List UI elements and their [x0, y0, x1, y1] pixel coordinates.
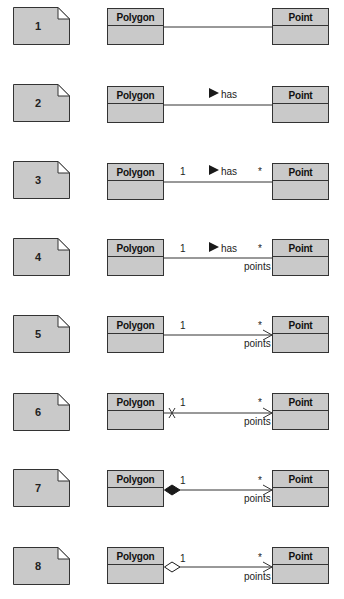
class-name: Point — [273, 548, 328, 565]
class-point[interactable]: Point — [272, 8, 329, 45]
class-name: Polygon — [108, 164, 163, 181]
class-name: Point — [273, 471, 328, 488]
source-multiplicity: 1 — [180, 398, 186, 408]
source-multiplicity: 1 — [180, 554, 186, 564]
class-name: Point — [273, 317, 328, 334]
composition-diamond-icon — [165, 485, 181, 495]
note-number: 4 — [13, 238, 63, 276]
target-multiplicity: * — [258, 167, 262, 177]
association-row-4: 4 Polygon Point 1 has * points — [0, 238, 344, 298]
class-polygon[interactable]: Polygon — [107, 393, 164, 430]
class-name: Polygon — [108, 9, 163, 26]
target-role: points — [244, 494, 271, 504]
class-name: Polygon — [108, 87, 163, 104]
association-row-7: 7 Polygon Point 1 * points — [0, 469, 344, 529]
target-role: points — [244, 572, 271, 582]
class-point[interactable]: Point — [272, 316, 329, 353]
association-row-3: 3 Polygon Point 1 has * — [0, 161, 344, 221]
source-multiplicity: 1 — [180, 321, 186, 331]
source-multiplicity: 1 — [180, 244, 186, 254]
class-polygon[interactable]: Polygon — [107, 239, 164, 276]
class-polygon[interactable]: Polygon — [107, 316, 164, 353]
note-1: 1 — [13, 7, 70, 45]
class-point[interactable]: Point — [272, 393, 329, 430]
class-polygon[interactable]: Polygon — [107, 163, 164, 200]
class-name: Point — [273, 164, 328, 181]
target-multiplicity: * — [258, 553, 262, 563]
note-number: 7 — [13, 469, 63, 507]
note-number: 5 — [13, 315, 63, 353]
note-4: 4 — [13, 238, 70, 276]
note-number: 1 — [13, 7, 63, 45]
association-row-6: 6 Polygon Point 1 * points — [0, 393, 344, 453]
note-7: 7 — [13, 469, 70, 507]
association-name: has — [221, 244, 237, 254]
class-name: Polygon — [108, 317, 163, 334]
class-polygon[interactable]: Polygon — [107, 8, 164, 45]
note-3: 3 — [13, 161, 70, 199]
class-name: Polygon — [108, 548, 163, 565]
note-number: 3 — [13, 161, 63, 199]
class-point[interactable]: Point — [272, 239, 329, 276]
class-polygon[interactable]: Polygon — [107, 470, 164, 507]
class-name: Point — [273, 240, 328, 257]
note-number: 6 — [13, 393, 63, 431]
class-name: Point — [273, 394, 328, 411]
aggregation-diamond-icon — [165, 562, 181, 572]
target-multiplicity: * — [258, 244, 262, 254]
target-role: points — [244, 262, 271, 272]
direction-triangle-icon — [209, 88, 219, 98]
class-name: Point — [273, 87, 328, 104]
class-name: Polygon — [108, 471, 163, 488]
target-multiplicity: * — [258, 476, 262, 486]
target-role: points — [244, 417, 271, 427]
target-multiplicity: * — [258, 398, 262, 408]
association-row-8: 8 Polygon Point 1 * points — [0, 547, 344, 599]
note-6: 6 — [13, 393, 70, 431]
class-name: Point — [273, 9, 328, 26]
association-row-5: 5 Polygon Point 1 * points — [0, 315, 344, 375]
source-multiplicity: 1 — [180, 476, 186, 486]
association-row-2: 2 Polygon Point has — [0, 84, 344, 144]
class-point[interactable]: Point — [272, 163, 329, 200]
association-line[interactable] — [164, 7, 273, 47]
association-name: has — [221, 90, 237, 100]
class-polygon[interactable]: Polygon — [107, 547, 164, 584]
note-number: 2 — [13, 84, 63, 122]
direction-triangle-icon — [209, 165, 219, 175]
class-point[interactable]: Point — [272, 547, 329, 584]
source-multiplicity: 1 — [180, 167, 186, 177]
note-5: 5 — [13, 315, 70, 353]
class-polygon[interactable]: Polygon — [107, 86, 164, 123]
target-role: points — [244, 339, 271, 349]
class-name: Polygon — [108, 394, 163, 411]
note-number: 8 — [13, 547, 63, 585]
class-point[interactable]: Point — [272, 86, 329, 123]
class-point[interactable]: Point — [272, 470, 329, 507]
note-8: 8 — [13, 547, 70, 585]
association-row-1: 1 Polygon Point — [0, 7, 344, 67]
association-name: has — [221, 167, 237, 177]
class-name: Polygon — [108, 240, 163, 257]
note-2: 2 — [13, 84, 70, 122]
direction-triangle-icon — [209, 242, 219, 252]
target-multiplicity: * — [258, 321, 262, 331]
